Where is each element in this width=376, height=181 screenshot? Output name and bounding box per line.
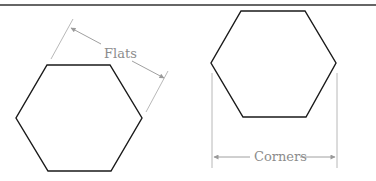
left-hexagon (16, 65, 142, 171)
corners-label: Corners (254, 149, 307, 164)
flats-label: Flats (104, 46, 137, 61)
flats-arrow-2 (132, 61, 164, 78)
right-hexagon (211, 11, 336, 117)
hexagon-dimension-diagram: Flats Corners (0, 0, 376, 181)
flats-extension-line-1 (51, 19, 73, 59)
flats-figure: Flats (16, 19, 168, 171)
flats-arrow-1 (71, 28, 101, 44)
corners-figure: Corners (211, 11, 337, 168)
flats-extension-line-2 (146, 71, 168, 112)
